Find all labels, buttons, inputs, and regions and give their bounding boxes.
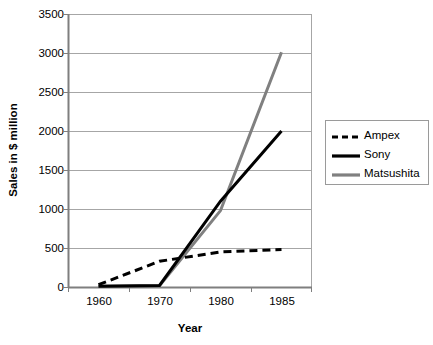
dashed-line-key: [331, 129, 361, 141]
x-tick-1960: 1960: [74, 296, 124, 308]
x-tick-1970: 1970: [135, 296, 185, 308]
chart-legend: Ampex Sony Matsushita: [325, 120, 429, 185]
x-axis-title: Year: [68, 322, 312, 334]
legend-label-ampex: Ampex: [364, 129, 400, 141]
legend-label-sony: Sony: [364, 148, 390, 160]
solid-black-line-key: [331, 148, 361, 160]
chart-container: Sales in $ million 3500 3000 2500 2000 1…: [0, 0, 433, 345]
legend-item-sony: Sony: [331, 144, 428, 163]
legend-label-matsushita: Matsushita: [364, 167, 420, 179]
x-tick-1985: 1985: [257, 296, 307, 308]
solid-gray-line-key: [331, 167, 361, 179]
legend-item-ampex: Ampex: [331, 125, 428, 144]
legend-item-matsushita: Matsushita: [331, 163, 428, 182]
y-axis-ticks: [63, 15, 68, 288]
x-tick-1980: 1980: [196, 296, 246, 308]
